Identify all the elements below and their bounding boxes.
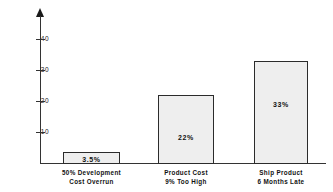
x-category-line-3b: 6 Months Late bbox=[236, 177, 326, 186]
bar-value-label: 3.5% bbox=[64, 156, 119, 163]
bar-value-label: 33% bbox=[255, 101, 307, 108]
y-tick-mark-10 bbox=[36, 132, 45, 133]
x-category-label-1: 50% Development Cost Overrun bbox=[44, 168, 139, 186]
y-tick-20: 20 bbox=[0, 97, 49, 105]
bar-product-cost-too-high: 22% bbox=[158, 95, 214, 164]
y-tick-mark-40 bbox=[36, 39, 45, 40]
x-category-line-2a: Product Cost bbox=[141, 168, 231, 177]
x-category-line-1b: Cost Overrun bbox=[44, 177, 139, 186]
bar-chart: % of Nominal Profit Loss 40 30 20 10 3.5… bbox=[0, 0, 333, 192]
x-category-label-2: Product Cost 9% Too High bbox=[141, 168, 231, 186]
bar-development-cost-overrun: 3.5% bbox=[63, 152, 120, 164]
bar-value-label: 22% bbox=[159, 134, 213, 141]
x-category-line-2b: 9% Too High bbox=[141, 177, 231, 186]
y-tick-40: 40 bbox=[0, 35, 49, 43]
x-category-line-3a: Ship Product bbox=[236, 168, 326, 177]
y-tick-30: 30 bbox=[0, 66, 49, 74]
bar-ship-product-late: 33% bbox=[254, 61, 308, 164]
y-tick-mark-30 bbox=[36, 70, 45, 71]
x-category-line-1a: 50% Development bbox=[44, 168, 139, 177]
y-tick-10: 10 bbox=[0, 128, 49, 136]
y-tick-mark-20 bbox=[36, 101, 45, 102]
x-category-label-3: Ship Product 6 Months Late bbox=[236, 168, 326, 186]
